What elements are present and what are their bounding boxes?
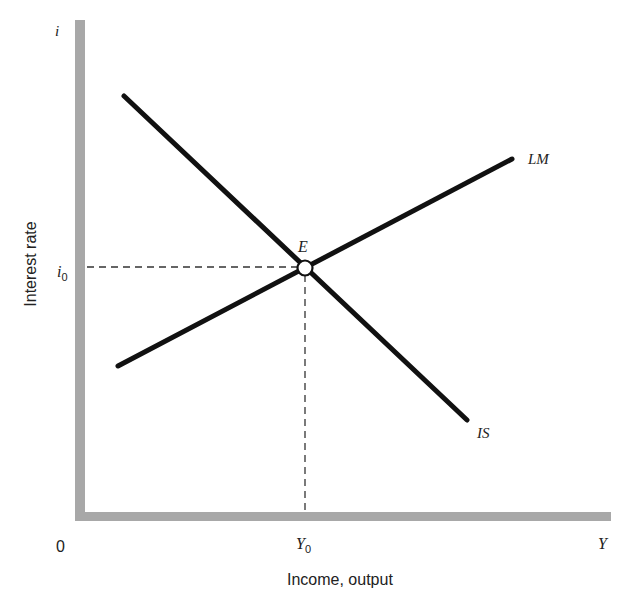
is-curve (124, 96, 467, 420)
y-axis-title: Interest rate (22, 221, 39, 306)
x-axis-symbol: Y (598, 535, 609, 552)
is-lm-diagram: i Interest rate i0 E LM IS 0 Y0 Y Income… (0, 0, 633, 596)
origin-label: 0 (56, 538, 65, 555)
lm-curve-label: LM (527, 151, 550, 167)
x-axis (75, 512, 611, 521)
equilibrium-point (298, 261, 313, 276)
i0-tick-label: i0 (57, 263, 68, 283)
is-curve-label: IS (476, 425, 490, 441)
lm-curve (118, 159, 512, 366)
y-axis-symbol: i (55, 23, 59, 39)
x-axis-title: Income, output (287, 571, 393, 588)
y0-tick-label: Y0 (296, 535, 311, 555)
y-axis (75, 20, 85, 521)
equilibrium-label: E (297, 238, 308, 255)
